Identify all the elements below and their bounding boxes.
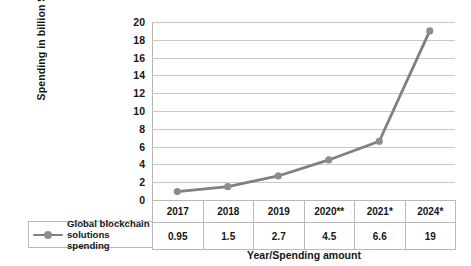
x-axis-title: Year/Spending amount [152, 249, 456, 261]
y-axis-tick-label: 20 [111, 17, 145, 28]
y-axis-tick-label: 0 [111, 195, 145, 206]
legend-label: Global blockchain solutions spending [67, 218, 152, 251]
legend-label-line2: solutions spending [67, 229, 110, 251]
data-table-wrap: 2017201820192020**2021*2024* 0.951.52.74… [152, 200, 456, 250]
y-axis-tick-label: 14 [111, 70, 145, 81]
data-point-marker [426, 27, 433, 34]
chart-figure: Spending in billion $ 20181614121086420 … [0, 0, 471, 266]
table-value-row: 0.951.52.74.56.619 [153, 223, 456, 250]
y-axis-tick-label: 6 [111, 141, 145, 152]
table-value-cell: 0.95 [153, 223, 204, 250]
line-series [152, 22, 455, 200]
table-value-cell: 19 [405, 223, 456, 250]
table-header-cell: 2020** [304, 201, 355, 223]
table-value-cell: 6.6 [355, 223, 406, 250]
data-table: 2017201820192020**2021*2024* 0.951.52.74… [152, 200, 456, 250]
table-value-cell: 1.5 [203, 223, 254, 250]
y-axis-tick-label: 4 [111, 159, 145, 170]
legend-label-line1: Global blockchain [67, 218, 150, 229]
y-axis-tick-label: 2 [111, 177, 145, 188]
table-header-cell: 2024* [405, 201, 456, 223]
y-axis-title: Spending in billion $ [35, 0, 55, 133]
y-axis-tick-label: 16 [111, 52, 145, 63]
table-value-cell: 4.5 [304, 223, 355, 250]
y-axis-tick-label: 12 [111, 88, 145, 99]
table-header-cell: 2021* [355, 201, 406, 223]
legend-entry: Global blockchain solutions spending [28, 221, 152, 248]
data-point-marker [275, 172, 282, 179]
data-point-marker [376, 138, 383, 145]
y-axis-tick-label: 10 [111, 106, 145, 117]
data-point-marker [224, 183, 231, 190]
legend-line-marker-icon [33, 230, 63, 240]
table-header-row: 2017201820192020**2021*2024* [153, 201, 456, 223]
table-header-cell: 2019 [254, 201, 305, 223]
table-header-cell: 2017 [153, 201, 204, 223]
plot-area: 20181614121086420 [152, 22, 455, 200]
data-point-marker [325, 156, 332, 163]
table-header-cell: 2018 [203, 201, 254, 223]
table-value-cell: 2.7 [254, 223, 305, 250]
data-point-marker [174, 188, 181, 195]
y-axis-tick-label: 18 [111, 35, 145, 46]
y-axis-tick-label: 8 [111, 124, 145, 135]
